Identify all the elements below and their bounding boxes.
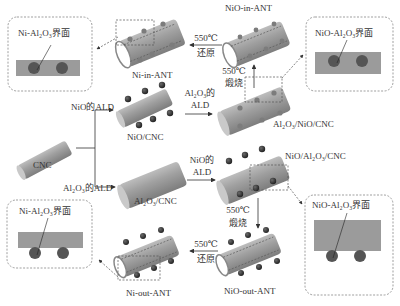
step-calcine-bottom-temp: 550℃ — [222, 205, 254, 216]
label-nio-cnc: NiO/CNC — [127, 132, 164, 143]
step-reduce-bottom: 还原 — [190, 254, 222, 265]
label-ni-in-ant: Ni-in-ANT — [132, 70, 173, 81]
ni-in-ant-tube — [112, 18, 186, 69]
inset-label-nio-out: NiO-Al₂O₃界面 — [312, 200, 370, 211]
step-nio-ald-right-2: ALD — [186, 167, 218, 178]
inset-label-ni-in: Ni-Al₂O₃界面 — [18, 28, 70, 39]
step-al2o3-ald-right-2: ALD — [184, 100, 216, 111]
step-nio-ald: NiO的ALD — [71, 102, 114, 113]
ni-out-ant-tube — [111, 235, 180, 280]
nio-out-ant-tube — [213, 233, 282, 278]
step-nio-ald-right-1: NiO的 — [186, 155, 218, 166]
label-al2o3-cnc: Al₂O₃/CNC — [134, 196, 177, 207]
inset-label-nio-in: NiO-Al₂O₃界面 — [315, 28, 373, 39]
step-reduce-top-temp: 550℃ — [189, 33, 223, 44]
label-nio-out-ant: NiO-out-ANT — [224, 286, 276, 297]
label-nio-in-ant: NiO-in-ANT — [225, 3, 272, 14]
step-reduce-bottom-temp: 550℃ — [190, 239, 222, 250]
step-al2o3-ald: Al₂O₃的ALD — [63, 183, 112, 194]
branch-arrows — [76, 110, 115, 187]
nio-cnc-rod — [114, 88, 173, 128]
label-cnc: CNC — [33, 160, 52, 171]
step-calcine-bottom: 煅烧 — [222, 218, 254, 229]
pointer-nio-in — [282, 55, 303, 78]
label-nio-al2o3-cnc: NiO/Al₂O₃/CNC — [285, 151, 346, 162]
step-reduce-top: 还原 — [189, 48, 223, 59]
label-ni-out-ant: Ni-out-ANT — [126, 288, 171, 299]
step-al2o3-ald-right-1: Al₂O₃的 — [184, 88, 216, 99]
step-calcine-top: 煅烧 — [218, 78, 250, 89]
pointer-nio-out — [288, 186, 302, 204]
label-al2o3-nio-cnc: Al₂O₃/NiO/CNC — [273, 119, 334, 130]
step-calcine-top-temp: 550℃ — [218, 66, 250, 77]
inset-label-ni-out: Ni-Al₂O₃界面 — [19, 206, 71, 217]
pointer-ni-in — [97, 37, 118, 49]
nio-al2o3-cnc-rod — [214, 155, 290, 206]
